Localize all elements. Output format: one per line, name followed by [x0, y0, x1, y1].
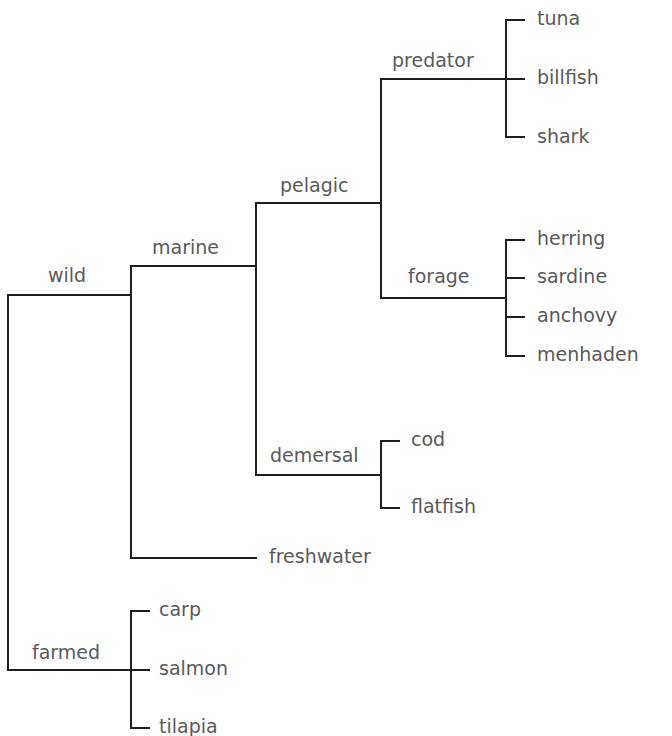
leaf-label-cod: cod: [411, 430, 445, 449]
node-label-predator: predator: [392, 51, 474, 70]
node-label-forage: forage: [408, 267, 470, 286]
leaf-label-salmon: salmon: [159, 659, 228, 678]
leaf-label-carp: carp: [159, 600, 201, 619]
leaf-label-shark: shark: [537, 127, 589, 146]
leaf-label-freshwater: freshwater: [269, 547, 371, 566]
leaf-label-sardine: sardine: [537, 267, 607, 286]
leaf-label-flatfish: flatfish: [411, 497, 476, 516]
tree-diagram: [0, 0, 672, 736]
node-label-marine: marine: [152, 238, 219, 257]
node-label-wild: wild: [48, 266, 86, 285]
node-label-farmed: farmed: [32, 643, 100, 662]
node-label-pelagic: pelagic: [280, 176, 348, 195]
leaf-label-anchovy: anchovy: [537, 306, 617, 325]
leaf-label-menhaden: menhaden: [537, 345, 639, 364]
node-label-demersal: demersal: [270, 446, 359, 465]
leaf-label-billfish: billfish: [537, 68, 599, 87]
leaf-label-herring: herring: [537, 229, 605, 248]
leaf-label-tuna: tuna: [537, 9, 580, 28]
leaf-label-tilapia: tilapia: [159, 717, 218, 736]
